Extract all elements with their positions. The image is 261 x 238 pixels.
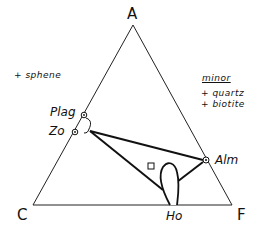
acf-ternary-diagram bbox=[0, 0, 261, 238]
vertex-f-label: F bbox=[237, 208, 246, 223]
hornblende-field bbox=[161, 163, 179, 205]
minor-item-quartz: + quartz bbox=[201, 89, 244, 98]
ho-label: Ho bbox=[166, 210, 182, 222]
alm-point-icon bbox=[203, 157, 209, 163]
minor-heading: minor bbox=[202, 74, 231, 83]
sphene-note: + sphene bbox=[14, 71, 61, 80]
zo-point-icon bbox=[72, 129, 78, 135]
minor-item-biotite: + biotite bbox=[201, 100, 245, 109]
plag-point-icon bbox=[81, 112, 87, 118]
bulk-composition-square-icon bbox=[148, 163, 154, 169]
zo-label: Zo bbox=[49, 125, 65, 137]
plag-label: Plag bbox=[50, 106, 76, 118]
plag-zo-solid-solution bbox=[84, 118, 91, 133]
vertex-a-label: A bbox=[127, 7, 137, 22]
alm-label: Alm bbox=[215, 154, 238, 166]
vertex-c-label: C bbox=[17, 208, 27, 223]
